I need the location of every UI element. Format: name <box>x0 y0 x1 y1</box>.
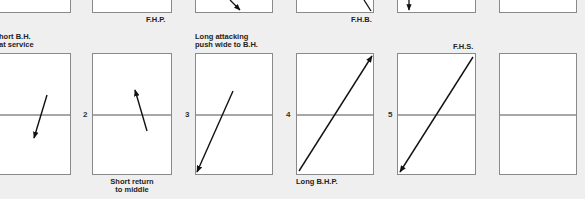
arrow-panel-2 <box>135 90 147 131</box>
arrow-panel-3 <box>197 91 233 172</box>
diagram-overlay <box>0 0 585 199</box>
arrow-panel-1 <box>34 95 47 138</box>
arrow-panel-4 <box>299 56 372 171</box>
top-row-arrows <box>230 0 409 11</box>
